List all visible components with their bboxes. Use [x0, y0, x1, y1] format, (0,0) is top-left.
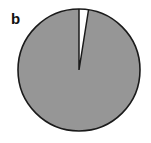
pie-chart [0, 0, 151, 143]
figure-panel-b: b [0, 0, 151, 143]
